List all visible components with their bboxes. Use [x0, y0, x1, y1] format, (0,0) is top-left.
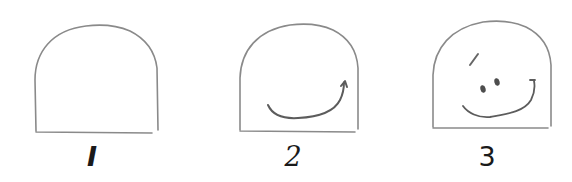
step-1-drawing: [35, 25, 158, 133]
dome-outline: [240, 24, 358, 132]
step-label-1: I: [62, 142, 122, 172]
dome-outline: [433, 21, 551, 128]
right-eye: [494, 78, 501, 87]
smile: [268, 81, 347, 118]
step-label-2: 2: [263, 142, 323, 172]
smile: [463, 80, 535, 117]
eyebrow: [470, 54, 478, 65]
step-label-3: 3: [457, 142, 517, 172]
step-2-drawing: [240, 24, 358, 132]
step-3-drawing: [433, 21, 551, 128]
left-eye: [480, 85, 487, 94]
dome-outline: [35, 25, 158, 133]
